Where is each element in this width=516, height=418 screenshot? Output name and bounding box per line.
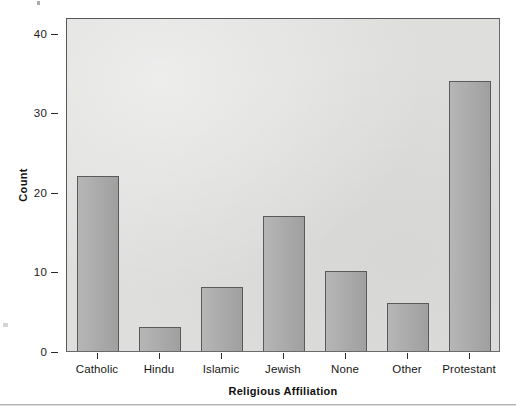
x-axis-tick-mark (159, 353, 160, 359)
y-axis-tick-label: 10 (34, 266, 47, 278)
bar (387, 303, 428, 351)
x-axis-tick-mark (283, 353, 284, 359)
y-axis-tick-label: 0 (40, 346, 47, 358)
x-axis-tick-label: None (331, 363, 359, 375)
y-axis-tick-mark (51, 352, 58, 353)
x-axis-tick-mark (407, 353, 408, 359)
bar (139, 327, 180, 351)
bar (201, 287, 242, 351)
bar (325, 271, 366, 351)
bar-series (67, 19, 499, 351)
bar (449, 81, 490, 351)
x-axis-tick-mark (469, 353, 470, 359)
x-axis-tick-label: Islamic (203, 363, 239, 375)
y-axis-tick-label: 20 (34, 187, 47, 199)
plot-panel (66, 18, 500, 352)
x-axis: CatholicHinduIslamicJewishNoneOtherProte… (66, 352, 500, 404)
x-axis-tick-label: Protestant (442, 363, 495, 375)
bar (77, 176, 118, 351)
y-axis-tick-label: 30 (34, 107, 47, 119)
y-axis-tick-label: 40 (34, 28, 47, 40)
y-axis-tick-mark (51, 113, 58, 114)
x-axis-tick-mark (345, 353, 346, 359)
x-axis-tick-label: Hindu (144, 363, 175, 375)
bar-chart-figure: Count 010203040 CatholicHinduIslamicJewi… (0, 0, 516, 404)
bar (263, 216, 304, 351)
scan-artifact-top (37, 1, 40, 5)
y-axis: Count 010203040 (0, 0, 66, 404)
y-axis-tick-mark (51, 193, 58, 194)
x-axis-title: Religious Affiliation (66, 385, 500, 397)
x-axis-tick-mark (221, 353, 222, 359)
scan-artifact-left (3, 323, 8, 327)
y-axis-title: Count (17, 168, 29, 201)
x-axis-tick-label: Catholic (76, 363, 118, 375)
x-axis-tick-label: Other (392, 363, 421, 375)
y-axis-tick-mark (51, 272, 58, 273)
y-axis-tick-mark (51, 34, 58, 35)
page-divider-rule (0, 404, 516, 406)
x-axis-tick-label: Jewish (265, 363, 301, 375)
x-axis-tick-mark (97, 353, 98, 359)
